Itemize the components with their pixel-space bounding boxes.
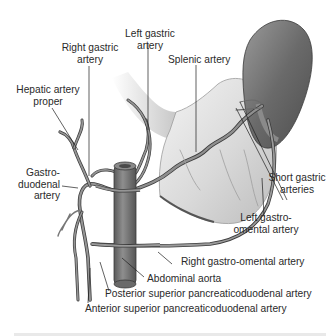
label-hepatic-artery-proper: Hepatic artery proper [12, 84, 84, 107]
label-gastroduodenal-line3: artery [6, 190, 60, 202]
esophagus [112, 72, 176, 139]
label-right-gastric-artery: Right gastric artery [54, 42, 126, 65]
abdominal-aorta [114, 162, 136, 288]
label-short-gastric-line2: arteries [262, 184, 332, 196]
label-right-gastric-line1: Right gastric [54, 42, 126, 54]
label-gastroduodenal-artery: Gastro- duodenal artery [6, 167, 60, 202]
label-left-gastric-line2: artery [118, 40, 182, 52]
hepatic-artery-proper [60, 132, 90, 186]
leader-right-gastro-omental [158, 252, 172, 264]
label-abdominal-aorta: Abdominal aorta [147, 273, 221, 285]
leader-gastroduodenal [62, 186, 78, 188]
label-left-gastric-line1: Left gastric [118, 28, 182, 40]
label-short-gastric-line1: Short gastric [262, 172, 332, 184]
label-left-gastro-omental-line1: Left gastro- [228, 212, 304, 224]
label-left-gastro-omental-artery: Left gastro- omental artery [228, 212, 304, 235]
label-splenic-artery: Splenic artery [168, 54, 230, 66]
label-posterior-superior-pancreaticoduodenal-artery: Posterior superior pancreaticoduodenal a… [105, 288, 312, 300]
label-gastroduodenal-line2: duodenal [6, 179, 60, 191]
label-short-gastric-arteries: Short gastric arteries [262, 172, 332, 195]
label-hepatic-line1: Hepatic artery [12, 84, 84, 96]
label-gastroduodenal-line1: Gastro- [6, 167, 60, 179]
label-hepatic-line2: proper [12, 96, 84, 108]
leader-hepatic-proper [52, 108, 78, 150]
label-left-gastro-omental-line2: omental artery [228, 224, 304, 236]
label-right-gastro-omental-artery: Right gastro-omental artery [181, 256, 304, 268]
label-left-gastric-artery: Left gastric artery [118, 28, 182, 51]
leader-posterior-pd [100, 262, 109, 291]
label-anterior-superior-pancreaticoduodenal-artery: Anterior superior pancreaticoduodenal ar… [85, 303, 287, 315]
label-right-gastric-line2: artery [54, 54, 126, 66]
